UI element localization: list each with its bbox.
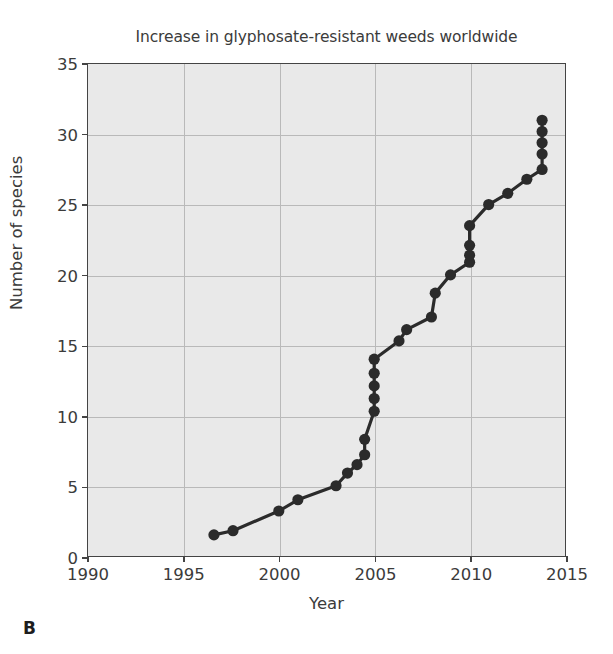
data-point-marker [369, 406, 380, 417]
y-tick-label: 5 [68, 478, 79, 497]
x-tick-label: 2010 [450, 565, 492, 584]
data-point-marker [208, 529, 219, 540]
y-tick-label: 35 [57, 55, 78, 74]
data-point-marker [401, 324, 412, 335]
series-line [214, 120, 542, 535]
data-point-marker [430, 288, 441, 299]
x-tick-mark [87, 556, 89, 562]
data-point-marker [359, 434, 370, 445]
x-tick-label: 2005 [354, 565, 396, 584]
data-point-marker [369, 368, 380, 379]
data-point-marker [537, 126, 548, 137]
x-tick-label: 1990 [67, 565, 109, 584]
chart-title: Increase in glyphosate-resistant weeds w… [87, 28, 566, 46]
plot-area: 05101520253035199019952000200520102015 [87, 63, 566, 557]
data-point-marker [502, 188, 513, 199]
y-tick-label: 20 [57, 266, 78, 285]
x-tick-mark [279, 556, 281, 562]
data-series-line [88, 64, 565, 556]
y-tick-label: 30 [57, 125, 78, 144]
data-point-marker [521, 174, 532, 185]
x-tick-mark [183, 556, 185, 562]
panel-letter-label: B [23, 618, 36, 638]
data-point-marker [537, 115, 548, 126]
x-tick-mark [566, 556, 568, 562]
data-point-marker [369, 393, 380, 404]
data-point-marker [464, 250, 475, 261]
y-axis-label: Number of species [7, 156, 26, 310]
data-point-marker [369, 354, 380, 365]
x-axis-label: Year [87, 594, 566, 613]
data-point-marker [464, 240, 475, 251]
data-point-marker [445, 269, 456, 280]
y-tick-label: 15 [57, 337, 78, 356]
x-tick-label: 2015 [546, 565, 588, 584]
data-point-marker [342, 467, 353, 478]
data-point-marker [369, 380, 380, 391]
x-tick-label: 2000 [259, 565, 301, 584]
x-tick-label: 1995 [163, 565, 205, 584]
data-point-marker [330, 480, 341, 491]
data-point-marker [351, 459, 362, 470]
x-tick-mark [375, 556, 377, 562]
data-point-marker [537, 164, 548, 175]
data-point-marker [426, 311, 437, 322]
data-point-marker [537, 137, 548, 148]
data-point-marker [273, 505, 284, 516]
figure-panel-b: Increase in glyphosate-resistant weeds w… [0, 0, 613, 654]
data-point-marker [292, 494, 303, 505]
x-tick-mark [470, 556, 472, 562]
data-point-marker [464, 220, 475, 231]
data-point-marker [393, 335, 404, 346]
data-point-marker [483, 199, 494, 210]
data-point-marker [227, 525, 238, 536]
data-point-marker [537, 148, 548, 159]
y-tick-label: 25 [57, 196, 78, 215]
data-point-marker [359, 449, 370, 460]
y-tick-label: 10 [57, 407, 78, 426]
